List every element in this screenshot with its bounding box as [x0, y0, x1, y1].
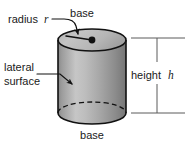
cylinder-solid	[58, 29, 126, 124]
height-variable-text: h	[168, 69, 174, 81]
lateral-surface-label-line2: surface	[4, 75, 40, 87]
lateral-surface-face	[58, 40, 126, 124]
height-label-text: height	[131, 69, 161, 81]
lateral-surface-label-line1: lateral	[4, 61, 34, 73]
radius-label-text: radius	[8, 13, 38, 25]
bottom-base-label-text: base	[80, 129, 104, 141]
cylinder-figure: radius r base lateral surface height h b…	[0, 0, 190, 145]
center-point-dot	[89, 37, 96, 44]
cylinder-diagram-svg: radius r base lateral surface height h b…	[0, 0, 190, 145]
radius-variable-text: r	[44, 13, 49, 25]
top-base-label-text: base	[70, 7, 94, 19]
